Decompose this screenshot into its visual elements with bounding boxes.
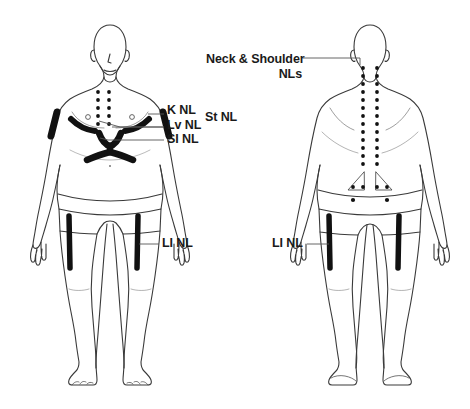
back-spine-dot — [375, 98, 379, 102]
back-head-outline — [354, 25, 386, 82]
anatomical-diagram: K NL St NL Lv NL SI NL LI NL LI NL Neck … — [0, 0, 470, 409]
front-chest-dot — [96, 122, 100, 126]
back-spine-dot — [361, 154, 365, 158]
front-mouth — [104, 70, 116, 72]
front-right-clavicle-band — [125, 119, 149, 131]
front-waistline — [58, 194, 162, 201]
back-spine-dot — [375, 162, 379, 166]
back-spine-dot — [361, 74, 365, 78]
front-left-hand — [31, 242, 46, 265]
back-lat-left — [322, 132, 358, 153]
front-right-leg-inner — [123, 234, 129, 368]
front-left-clavicle-band — [71, 119, 95, 131]
back-spine-dot — [375, 66, 379, 70]
back-left-thigh-band — [329, 216, 330, 268]
back-sacral-dot — [375, 185, 379, 189]
back-waist-right — [420, 165, 423, 209]
back-gluteal-dot — [385, 198, 389, 202]
label-neck-shoulder-line2: NLs — [206, 67, 302, 82]
front-navel — [109, 165, 111, 167]
label-li-nl-front: LI NL — [162, 237, 193, 250]
back-lat-right — [382, 132, 418, 153]
back-spine-dot — [375, 146, 379, 150]
leader-lv-nl-2 — [99, 121, 120, 127]
back-spine-dot — [375, 90, 379, 94]
back-waist-left — [317, 165, 320, 209]
front-left-deltoid-band — [51, 112, 57, 136]
back-spine-dot — [375, 82, 379, 86]
back-spine-dot — [375, 154, 379, 158]
label-k-nl: K NL — [167, 104, 196, 117]
front-shorts — [59, 209, 161, 234]
front-chest-dot — [96, 90, 100, 94]
back-spine-dot — [375, 74, 379, 78]
back-spine-dot — [375, 138, 379, 142]
front-body-figure — [31, 25, 190, 385]
front-left-nipple — [86, 115, 91, 120]
back-spine-dot — [361, 90, 365, 94]
back-spine-dot — [361, 162, 365, 166]
back-left-heel — [331, 376, 356, 381]
back-waistline — [318, 190, 422, 197]
back-spine-dot — [361, 66, 365, 70]
front-chest-dot — [96, 98, 100, 102]
front-chest-dot — [96, 114, 100, 118]
label-neck-shoulder-nls: Neck & Shoulder NLs — [206, 52, 302, 82]
front-chest-dot — [107, 90, 111, 94]
label-li-nl-back: LI NL — [272, 237, 303, 250]
label-lv-nl: Lv NL — [167, 119, 201, 132]
back-spine-dot — [375, 122, 379, 126]
back-right-hand — [434, 242, 449, 265]
back-left-knee — [329, 289, 349, 291]
back-spine-dot — [361, 106, 365, 110]
back-spine-dot — [361, 146, 365, 150]
back-shorts — [319, 209, 421, 235]
front-left-thigh-band — [69, 216, 70, 268]
back-sacral-dot — [351, 185, 355, 189]
back-right-knee — [391, 289, 411, 291]
front-markings — [96, 90, 111, 126]
back-spine-dot — [375, 130, 379, 134]
back-scapula-right — [386, 108, 410, 130]
front-chest-dot — [107, 114, 111, 118]
label-si-nl: SI NL — [167, 133, 198, 146]
front-right-nipple — [130, 115, 135, 120]
back-sacral-dot — [361, 185, 365, 189]
front-costal-right-band — [110, 152, 133, 160]
back-spine-dot — [375, 114, 379, 118]
back-body-figure — [291, 25, 450, 385]
front-chest-dot — [107, 98, 111, 102]
front-right-thigh-band — [137, 216, 138, 268]
back-spine-dot — [361, 130, 365, 134]
back-right-heel — [384, 376, 409, 381]
front-nose — [108, 54, 111, 63]
back-right-thigh-band — [398, 216, 399, 268]
front-right-knee — [131, 289, 151, 291]
back-spine-dot — [375, 106, 379, 110]
back-spine-dot — [361, 122, 365, 126]
back-torso-outline-right — [376, 77, 447, 248]
front-left-leg-inner — [91, 234, 97, 368]
front-costal-left-band — [87, 152, 110, 160]
back-gluteal-dot — [351, 198, 355, 202]
front-waist-left — [57, 165, 60, 209]
back-spine-dot — [361, 138, 365, 142]
label-st-nl: St NL — [205, 111, 237, 124]
back-scapula-left — [330, 108, 354, 130]
back-spine-dot — [361, 98, 365, 102]
front-jaw — [100, 66, 120, 75]
front-chest-dot — [96, 106, 100, 110]
front-left-knee — [69, 289, 89, 291]
back-sacral-dot — [385, 185, 389, 189]
back-spine-dot — [361, 82, 365, 86]
front-waist-right — [160, 165, 163, 209]
front-chest-dot — [107, 106, 111, 110]
back-spine-dot — [361, 114, 365, 118]
label-neck-shoulder-line1: Neck & Shoulder — [206, 52, 302, 67]
